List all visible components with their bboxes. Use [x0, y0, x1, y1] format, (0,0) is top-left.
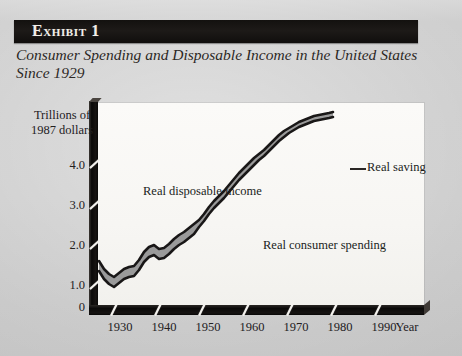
y-axis-title-line2: 1987 dollars: [31, 123, 93, 137]
y-axis-title-line1: Trillions of: [34, 108, 90, 122]
y-axis-tick-label: 2.0: [45, 238, 85, 253]
y-axis-tick-label: 3.0: [45, 198, 85, 213]
real-saving-label: Real saving: [367, 160, 426, 175]
y-axis-tick-label: 1.0: [45, 278, 85, 293]
y-axis-tick-label: 4.0: [45, 158, 85, 173]
y-axis-top-bevel: [89, 98, 102, 102]
x-axis-tick-label: 1930: [100, 320, 140, 335]
plot-area: [97, 103, 424, 305]
real-saving-leader-line: [350, 168, 366, 170]
x-axis-title: Year: [383, 320, 431, 335]
y-axis-title: Trillions of 1987 dollars: [28, 108, 96, 137]
x-axis-tick-label: 1980: [320, 320, 360, 335]
x-axis-right-bevel: [424, 300, 430, 315]
y-axis-tick-label: 0: [45, 300, 85, 315]
chart-figure: 4.0 3.0 2.0 1.0 0 Trillions of 1987 doll…: [0, 0, 462, 356]
real-disposable-income-label: Real disposable income: [143, 184, 262, 199]
x-axis-tick-label: 1950: [188, 320, 228, 335]
chart-curves: [97, 103, 424, 305]
x-axis-tick-label: 1970: [276, 320, 316, 335]
real-consumer-spending-label: Real consumer spending: [263, 238, 386, 253]
x-axis-tick-label: 1960: [232, 320, 272, 335]
x-axis-tick-label: 1940: [144, 320, 184, 335]
